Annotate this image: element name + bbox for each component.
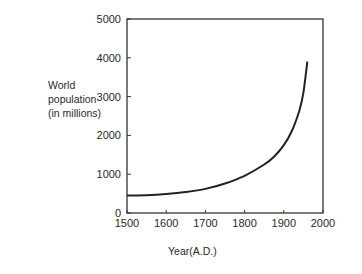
x-tick-label: 1900: [272, 217, 296, 229]
x-tick-label: 1700: [193, 217, 217, 229]
y-tick-label: 2000: [97, 129, 121, 141]
x-tick-label: 1600: [154, 217, 178, 229]
y-tick-label: 4000: [97, 52, 121, 64]
y-tick-label: 5000: [97, 13, 121, 25]
y-tick-label: 3000: [97, 91, 121, 103]
population-curve: [127, 62, 307, 196]
y-axis-ticks: 010002000300040005000: [97, 13, 131, 219]
y-tick-label: 1000: [97, 168, 121, 180]
line-chart: 010002000300040005000 150016001700180019…: [0, 0, 362, 274]
x-tick-label: 2000: [311, 217, 335, 229]
x-tick-label: 1500: [115, 217, 139, 229]
x-tick-label: 1800: [232, 217, 256, 229]
